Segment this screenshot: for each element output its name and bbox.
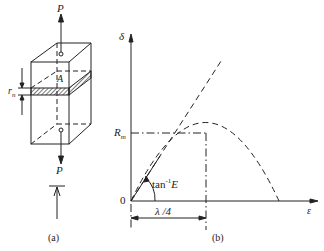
caption-b: (b) — [212, 232, 224, 243]
y-axis-label: δ — [119, 30, 124, 42]
slope-var: E — [171, 178, 178, 190]
slope-label: tan-1E — [152, 177, 178, 190]
thickness-label: rn — [8, 85, 15, 99]
max-subscript: m — [121, 133, 126, 141]
caption-a: (a) — [48, 232, 59, 243]
max-label: Rm — [114, 126, 126, 141]
origin-label: 0 — [120, 194, 126, 206]
span-label: λ /4 — [155, 205, 171, 217]
max-symbol: R — [114, 126, 121, 138]
force-label-top: P — [57, 2, 64, 14]
x-axis-label: ε — [307, 205, 311, 216]
figure: P P A rn (a) δ ε 0 Rm tan-1E λ /4 (b) — [0, 0, 324, 251]
thickness-subscript: n — [12, 91, 16, 99]
slope-tan: tan — [152, 178, 165, 190]
area-label: A — [57, 73, 63, 84]
force-label-bottom: P — [56, 164, 63, 176]
